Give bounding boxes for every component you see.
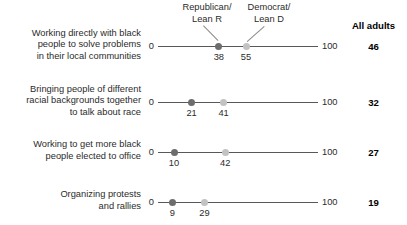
data-point-republican bbox=[188, 99, 195, 106]
axis-min-label: 0 bbox=[132, 197, 154, 207]
legend-label-democrat: Democrat/ Lean D bbox=[230, 2, 308, 25]
data-point-democrat bbox=[222, 149, 229, 156]
row-category-label-line: Working to get more black bbox=[0, 139, 141, 151]
row-category-label-line: Bringing people of different bbox=[0, 84, 141, 96]
row-axis-line bbox=[158, 46, 318, 47]
row-category-label-line: people elected to office bbox=[0, 151, 141, 163]
row-category-label-line: and rallies bbox=[0, 201, 141, 213]
row-category-label-line: racial backgrounds together bbox=[0, 95, 141, 107]
leader-line-republican bbox=[203, 25, 219, 41]
axis-min-label: 0 bbox=[132, 147, 154, 157]
legend-label-democrat-line2: Lean D bbox=[230, 14, 308, 26]
row-axis-line bbox=[158, 102, 318, 103]
data-point-democrat bbox=[243, 43, 250, 50]
row-category-label-line: to talk about race bbox=[0, 107, 141, 119]
data-point-democrat bbox=[201, 199, 208, 206]
row-category-label: Bringing people of differentracial backg… bbox=[0, 84, 141, 119]
data-value-republican: 21 bbox=[177, 108, 207, 118]
row-category-label: Working directly with blackpeople to sol… bbox=[0, 28, 141, 63]
data-value-republican: 9 bbox=[157, 208, 187, 218]
dot-plot-figure: Republican/ Lean R Democrat/ Lean D All … bbox=[0, 0, 407, 225]
data-point-republican bbox=[171, 149, 178, 156]
row-category-label-line: Working directly with black bbox=[0, 28, 141, 40]
axis-min-label: 0 bbox=[132, 97, 154, 107]
data-value-republican: 38 bbox=[204, 52, 234, 62]
row-category-label: Organizing protestsand rallies bbox=[0, 189, 141, 212]
data-value-democrat: 55 bbox=[231, 52, 261, 62]
data-point-democrat bbox=[220, 99, 227, 106]
all-adults-value: 19 bbox=[340, 197, 407, 208]
row-category-label-line: in their local communities bbox=[0, 51, 141, 63]
data-point-republican bbox=[169, 199, 176, 206]
all-adults-value: 27 bbox=[340, 147, 407, 158]
data-value-democrat: 29 bbox=[189, 208, 219, 218]
row-category-label: Working to get more blackpeople elected … bbox=[0, 139, 141, 162]
data-value-democrat: 42 bbox=[210, 158, 240, 168]
data-value-democrat: 41 bbox=[209, 108, 239, 118]
row-category-label-line: Organizing protests bbox=[0, 189, 141, 201]
row-axis-line bbox=[158, 152, 318, 153]
all-adults-value: 32 bbox=[340, 97, 407, 108]
leader-line-democrat bbox=[247, 26, 265, 42]
data-value-republican: 10 bbox=[159, 158, 189, 168]
row-category-label-line: people to solve problems bbox=[0, 39, 141, 51]
row-axis-line bbox=[158, 202, 318, 203]
all-adults-column-header: All adults bbox=[340, 20, 407, 31]
data-point-republican bbox=[215, 43, 222, 50]
axis-min-label: 0 bbox=[132, 41, 154, 51]
all-adults-value: 46 bbox=[340, 41, 407, 52]
legend-label-democrat-line1: Democrat/ bbox=[230, 2, 308, 14]
